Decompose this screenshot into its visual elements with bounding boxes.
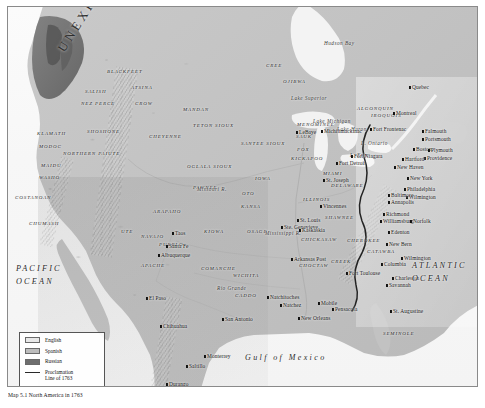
settlement-label: Natchitoches <box>270 295 299 300</box>
settlement-marker <box>172 232 174 234</box>
legend-label-proclamation-line: Proclamation Line of 1763 <box>45 369 73 382</box>
tribe-label: CADDO <box>235 293 257 298</box>
tribe-label: WICHITA <box>233 273 259 278</box>
tribe-label: SEMINOLE <box>383 331 414 336</box>
settlement-marker <box>291 258 293 260</box>
water-feature-label: L. Ontario <box>361 141 388 146</box>
settlement-marker <box>388 231 390 233</box>
settlement-marker <box>394 166 396 168</box>
settlement-marker <box>413 148 415 150</box>
settlement-label: Pensacola <box>335 307 357 312</box>
tribe-label: IOWA <box>255 176 271 181</box>
settlement-label: Kaskaskia <box>302 228 325 233</box>
tribe-label: CREEK <box>331 259 351 264</box>
settlement-marker <box>298 317 300 319</box>
settlement-marker <box>186 365 188 367</box>
tribe-label: CHEROKEE <box>347 238 380 243</box>
settlement-marker <box>393 112 395 114</box>
settlement-label: Norfolk <box>413 219 431 224</box>
tribe-label: BLACKFEET <box>107 69 143 74</box>
tribe-label: CROW <box>135 101 153 106</box>
gulf-of-mexico-label: Gulf of Mexico <box>245 354 327 362</box>
settlement-label: Michilimackinac <box>324 129 362 134</box>
settlement-label: Quebec <box>412 85 429 90</box>
settlement-marker <box>404 188 406 190</box>
settlement-marker <box>320 205 322 207</box>
tribe-label: MAIDU <box>41 163 62 168</box>
settlement-label: El Paso <box>149 296 166 301</box>
proclamation-label-line-2: Line of 1763 <box>45 375 72 381</box>
tribe-label: ILLINOIS <box>303 197 330 202</box>
settlement-marker <box>222 318 224 320</box>
figure-caption: Map 5.1 North America in 1763 <box>8 392 468 398</box>
settlement-label: San Antonio <box>225 317 253 322</box>
settlement-label: Portsmouth <box>425 137 451 142</box>
settlement-label: Saltillo <box>189 364 205 369</box>
tribe-label: KIOWA <box>204 229 224 234</box>
tribe-label: UTE <box>121 229 133 234</box>
tribe-label: CREE <box>266 63 282 68</box>
settlement-marker <box>402 158 404 160</box>
legend-swatch-english <box>25 337 40 343</box>
legend: English Spanish Russian Proclamation Lin… <box>19 332 105 387</box>
settlement-label: Savannah <box>389 283 411 288</box>
legend-row-english: English <box>25 337 99 343</box>
settlement-marker <box>160 325 162 327</box>
settlement-label: Fort Detroit <box>339 161 366 166</box>
settlement-marker <box>388 194 390 196</box>
tribe-label: MIAMI <box>323 171 342 176</box>
tribe-label: SANTEE SIOUX <box>241 141 285 146</box>
legend-swatch-proclamation-line <box>25 372 40 373</box>
settlement-marker <box>390 310 392 312</box>
settlement-label: New Haven <box>397 165 424 170</box>
settlement-label: Providence <box>427 156 452 161</box>
settlement-marker <box>388 201 390 203</box>
settlement-marker <box>428 149 430 151</box>
settlement-marker <box>392 277 394 279</box>
settlement-marker <box>409 86 411 88</box>
settlement-label: Durango <box>169 382 189 387</box>
settlement-label: Taos <box>175 231 186 236</box>
settlement-marker <box>158 254 160 256</box>
settlement-label: Columbia <box>384 262 406 267</box>
settlement-marker <box>383 213 385 215</box>
water-feature-label: Missouri R. <box>197 187 227 192</box>
water-feature-label: Mississippi R. <box>265 231 301 236</box>
legend-label-english: English <box>45 337 61 343</box>
settlement-label: New Bern <box>389 242 412 247</box>
settlement-label: Edenton <box>391 230 410 235</box>
tribe-label: SHOSHONE <box>87 129 120 134</box>
legend-label-russian: Russian <box>45 358 62 364</box>
settlement-label: Fort Toulouse <box>349 271 380 276</box>
settlement-marker <box>166 383 168 385</box>
settlement-marker <box>370 128 372 130</box>
settlement-label: Arkansas Post <box>294 257 326 262</box>
settlement-marker <box>280 304 282 306</box>
tribe-label: NEZ PERCE <box>81 101 115 106</box>
settlement-marker <box>299 229 301 231</box>
legend-swatch-russian <box>25 359 40 365</box>
legend-row-russian: Russian <box>25 358 99 364</box>
settlement-marker <box>381 263 383 265</box>
settlement-marker <box>267 296 269 298</box>
atlantic-line-2: OCEAN <box>412 273 467 286</box>
settlement-label: Natchez <box>283 303 301 308</box>
settlement-marker <box>323 179 325 181</box>
settlement-label: Richmond <box>386 212 409 217</box>
settlement-label: LeBaye <box>299 130 316 135</box>
settlement-label: Chihuahua <box>163 324 187 329</box>
settlement-marker <box>166 245 168 247</box>
tribe-label: CHEYENNE <box>149 134 182 139</box>
settlement-label: Hartford <box>405 157 424 162</box>
tribe-label: CATAWBA <box>367 249 395 254</box>
tribe-label: MANDAN <box>183 107 209 112</box>
tribe-label: FOX <box>297 147 309 152</box>
tribe-label: COSTANOAN <box>15 195 51 200</box>
settlement-marker <box>204 355 206 357</box>
settlement-marker <box>422 138 424 140</box>
tribe-label: OGLALA SIOUX <box>187 164 232 169</box>
water-feature-label: Hudson Bay <box>324 41 355 46</box>
settlement-marker <box>346 272 348 274</box>
settlement-marker <box>407 177 409 179</box>
settlement-label: Monterrey <box>207 354 231 359</box>
